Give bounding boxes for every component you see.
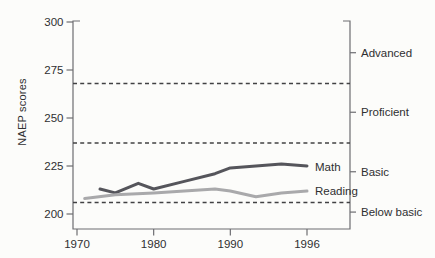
x-tick-label: 1980 — [141, 238, 167, 250]
y-tick-label: 250 — [44, 112, 63, 124]
achievement-level-label: Advanced — [361, 47, 412, 59]
math-series-label: Math — [315, 161, 341, 173]
reading-series-label: Reading — [315, 185, 358, 197]
naep-score-trends-figure: NAEP scores 2002252502753001970198019901… — [0, 0, 435, 258]
y-axis-title: NAEP scores — [16, 78, 28, 145]
x-tick-label: 1996 — [294, 238, 320, 250]
y-tick-label: 300 — [44, 16, 63, 28]
axes-frame — [73, 21, 350, 229]
achievement-level-label: Basic — [361, 166, 389, 178]
y-tick-label: 200 — [44, 208, 63, 220]
x-tick-label: 1970 — [64, 238, 90, 250]
y-tick-label: 275 — [44, 64, 63, 76]
y-tick-label: 225 — [44, 160, 63, 172]
achievement-level-label: Proficient — [361, 106, 410, 118]
naep-line-chart: 2002252502753001970198019901996AdvancedP… — [0, 0, 435, 258]
achievement-level-label: Below basic — [361, 206, 423, 218]
x-tick-label: 1990 — [218, 238, 244, 250]
